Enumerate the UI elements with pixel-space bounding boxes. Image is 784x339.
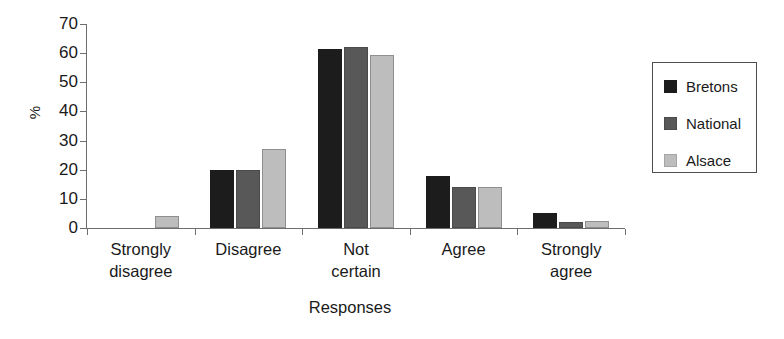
bar-group <box>318 24 394 228</box>
legend-item: Alsace <box>664 152 731 168</box>
x-axis-tick-mark <box>410 229 411 235</box>
x-axis-tick-mark <box>625 229 626 235</box>
y-axis-tick-label: 20 <box>42 161 78 178</box>
y-axis-tick-label: 50 <box>42 73 78 90</box>
legend-swatch-icon <box>664 117 677 130</box>
bar-national <box>452 187 476 228</box>
x-axis-category-label: Not certain <box>302 238 410 282</box>
bar-national <box>344 47 368 228</box>
bar-alsace <box>262 149 286 228</box>
legend-label: Bretons <box>686 79 738 94</box>
bar-bretons <box>426 176 450 228</box>
legend-item: Bretons <box>664 78 738 94</box>
x-axis-tick-mark <box>517 229 518 235</box>
bar-bretons <box>210 170 234 228</box>
y-axis-tick-label: 70 <box>42 15 78 32</box>
x-axis-category-label: Strongly disagree <box>87 238 195 282</box>
legend-swatch-icon <box>664 154 677 167</box>
bar-alsace <box>585 221 609 228</box>
x-axis-tick-mark <box>302 229 303 235</box>
bar-group <box>533 24 609 228</box>
x-axis-category-label: Strongly agree <box>517 238 625 282</box>
x-axis-category-label: Disagree <box>195 238 303 260</box>
legend-label: Alsace <box>686 153 731 168</box>
y-axis-tick-label: 10 <box>42 190 78 207</box>
bar-alsace <box>478 187 502 228</box>
x-axis-title: Responses <box>0 298 700 317</box>
bar-chart-figure: % 010203040506070 Strongly disagreeDisag… <box>0 0 784 339</box>
bar-alsace <box>155 216 179 228</box>
x-axis-tick-mark <box>87 229 88 235</box>
plot-area <box>87 24 625 228</box>
y-axis-title: % <box>26 93 43 133</box>
x-axis-tick-mark <box>195 229 196 235</box>
bar-group <box>426 24 502 228</box>
y-axis-tick-labels: 010203040506070 <box>42 0 78 339</box>
x-axis-category-label: Agree <box>410 238 518 260</box>
bar-group <box>103 24 179 228</box>
bar-national <box>236 170 260 228</box>
y-axis-tick-label: 40 <box>42 102 78 119</box>
y-axis-tick-label: 0 <box>42 219 78 236</box>
y-axis-tick-label: 30 <box>42 132 78 149</box>
legend-label: National <box>686 116 741 131</box>
bar-bretons <box>533 213 557 228</box>
bar-bretons <box>318 49 342 228</box>
bar-alsace <box>370 55 394 228</box>
legend: BretonsNationalAlsace <box>652 62 757 173</box>
y-axis-tick-label: 60 <box>42 44 78 61</box>
x-axis-category-labels: Strongly disagreeDisagreeNot certainAgre… <box>87 238 625 288</box>
legend-swatch-icon <box>664 80 677 93</box>
bar-group <box>210 24 286 228</box>
bar-national <box>559 222 583 228</box>
legend-item: National <box>664 115 741 131</box>
x-axis-line <box>86 228 625 229</box>
